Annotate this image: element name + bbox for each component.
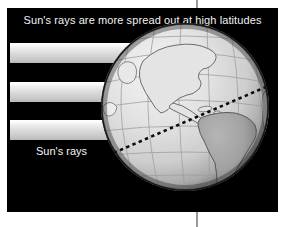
illustration-panel: Sun's rays are more spread out at high l… — [7, 8, 278, 212]
globe-svg — [99, 21, 271, 193]
sun-rays-label: Sun's rays — [36, 145, 87, 158]
globe — [99, 21, 271, 193]
figure-root: Sun's rays are more spread out at high l… — [0, 0, 284, 227]
greenland-shape — [118, 62, 137, 84]
